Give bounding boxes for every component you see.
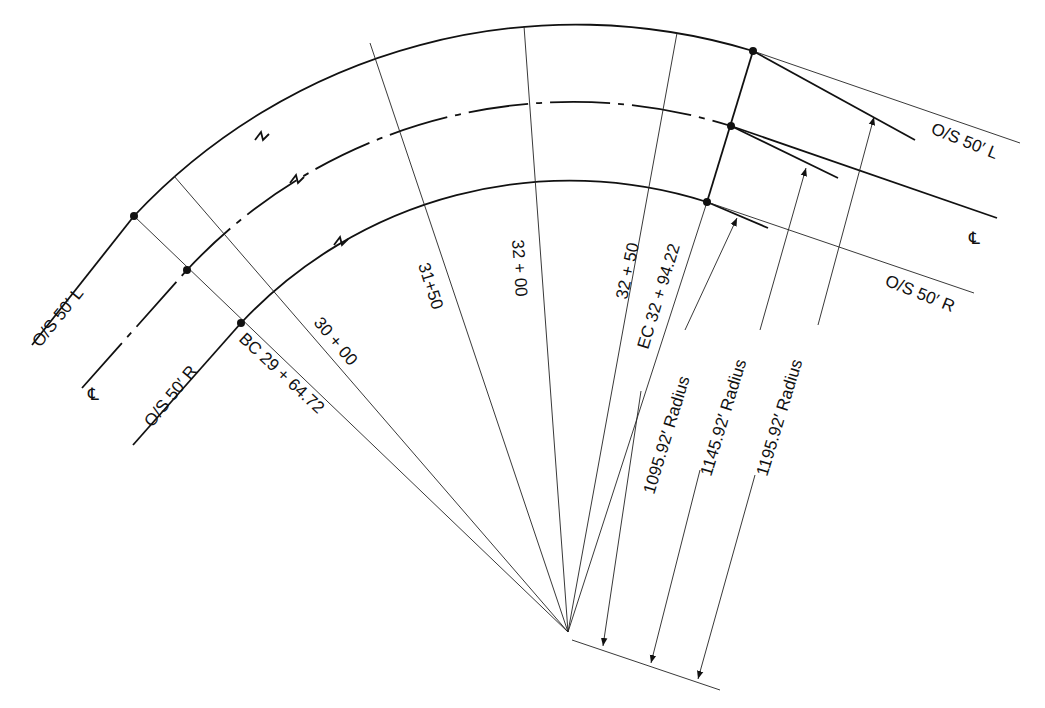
radial-3200 xyxy=(524,26,568,632)
label-cl-start: ℄ xyxy=(87,385,99,404)
os-right-tangent-end xyxy=(707,202,974,293)
break-mark-inner xyxy=(334,237,348,245)
tangent-lines-start xyxy=(32,216,241,445)
centerline-tangent-start xyxy=(82,270,187,388)
os-right-arc-continuation xyxy=(707,202,768,228)
break-mark-cl xyxy=(290,175,304,183)
bc-point-os-left xyxy=(130,212,138,220)
label-os-left-end: O/S 50′ L xyxy=(929,119,1001,163)
tangent-lines-end xyxy=(707,51,1020,293)
radius-inner-lower xyxy=(603,391,641,646)
label-cl-end: ℄ xyxy=(968,229,980,248)
label-sta-3250: 32 + 50 xyxy=(612,241,642,301)
bc-point-cl xyxy=(183,266,191,274)
ec-point-os-left xyxy=(749,47,757,55)
os-left-arc xyxy=(134,25,753,216)
label-sta-3150: 31+50 xyxy=(414,260,447,311)
label-sta-3200: 32 + 00 xyxy=(508,239,531,297)
label-radius-outer: 1195.92′ Radius xyxy=(753,357,807,478)
dimension-base-line xyxy=(572,640,720,690)
radius-cl-upper xyxy=(760,168,806,330)
radius-outer-upper xyxy=(818,117,874,325)
station-radials xyxy=(134,26,753,632)
label-sta-3000: 30 + 00 xyxy=(310,313,361,369)
ec-point-cl xyxy=(727,122,735,130)
label-bc: BC 29 + 64.72 xyxy=(235,329,328,417)
radius-cl-lower xyxy=(651,470,700,663)
label-os-left-start: O/S 50′ L xyxy=(28,284,87,351)
break-mark-outer xyxy=(255,132,269,140)
bc-point-os-right xyxy=(237,319,245,327)
os-left-arc-continuation xyxy=(753,51,915,140)
radial-3250 xyxy=(568,33,677,632)
ec-point-os-right xyxy=(703,198,711,206)
centerline-arc-continuation xyxy=(731,126,838,178)
label-radius-cl: 1145.92′ Radius xyxy=(697,357,751,478)
labels: O/S 50′ L ℄ O/S 50′ R BC 29 + 64.72 30 +… xyxy=(28,119,1000,496)
label-radius-inner: 1095.92′ Radius xyxy=(640,374,694,496)
radius-outer-lower xyxy=(698,475,755,679)
label-os-right-end: O/S 50′ R xyxy=(883,271,958,316)
os-left-tangent-end xyxy=(753,51,1020,143)
radial-3150 xyxy=(370,43,568,632)
label-os-right-start: O/S 50′ R xyxy=(140,362,201,431)
radius-inner-upper xyxy=(685,218,737,330)
bc-radial xyxy=(134,216,568,632)
curve-diagram: O/S 50′ L ℄ O/S 50′ R BC 29 + 64.72 30 +… xyxy=(0,0,1045,708)
